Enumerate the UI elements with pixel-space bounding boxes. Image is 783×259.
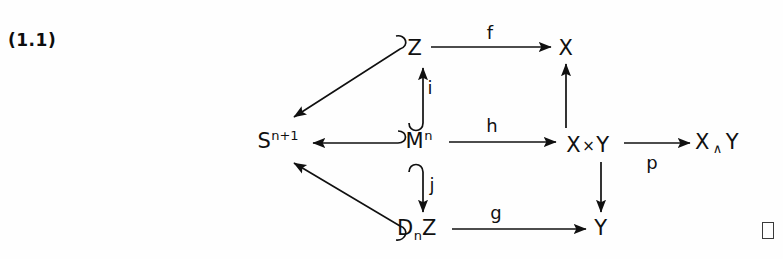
node-z: Z — [408, 38, 423, 59]
cross-product-icon: × — [581, 137, 596, 155]
node-dn-z: DnZ — [397, 218, 437, 239]
node-x-times-y-left: X — [566, 133, 581, 157]
arrow-dnz-to-sphere — [294, 163, 406, 240]
arrow-label-g: g — [490, 204, 501, 222]
node-manifold-m-n: Mn — [406, 131, 433, 152]
arrow-z-to-sphere — [294, 36, 406, 117]
node-x-label: X — [559, 36, 574, 60]
node-sphere-exponent: n+1 — [271, 128, 298, 143]
arrow-label-j: j — [429, 176, 434, 194]
node-x-wedge-y: X∧Y — [695, 132, 739, 155]
node-y: Y — [594, 218, 607, 239]
node-x-times-y: X×Y — [566, 135, 609, 156]
node-x-times-y-right: Y — [596, 133, 609, 157]
arrow-j — [409, 165, 423, 213]
node-dn-z-subscript: n — [414, 228, 422, 243]
node-x: X — [559, 38, 574, 59]
node-manifold-base: M — [406, 129, 425, 153]
node-x-wedge-y-left: X — [695, 130, 710, 154]
node-dn-z-tail: Z — [422, 216, 437, 240]
qed-box-icon — [762, 222, 774, 239]
commutative-diagram-figure: (1.1) X --> Z (hooked tail at bottom) --… — [0, 0, 783, 259]
node-manifold-exponent: n — [424, 128, 432, 143]
node-dn-z-base: D — [397, 216, 414, 240]
arrow-label-i: i — [427, 79, 432, 97]
arrow-label-h: h — [486, 117, 497, 135]
arrow-label-p: p — [646, 154, 657, 172]
smash-product-icon: ∧ — [710, 141, 726, 156]
equation-number: (1.1) — [8, 30, 56, 50]
node-y-label: Y — [594, 216, 607, 240]
node-sphere-n-plus-1: Sn+1 — [257, 131, 298, 152]
arrow-layer: X --> Z (hooked tail at bottom) --> D_n … — [0, 0, 783, 259]
node-z-label: Z — [408, 36, 423, 60]
arrow-i — [409, 68, 423, 131]
node-sphere-base: S — [257, 129, 271, 153]
arrow-m-to-sphere — [313, 131, 406, 143]
node-x-wedge-y-right: Y — [726, 130, 739, 154]
arrow-label-f: f — [487, 24, 493, 42]
